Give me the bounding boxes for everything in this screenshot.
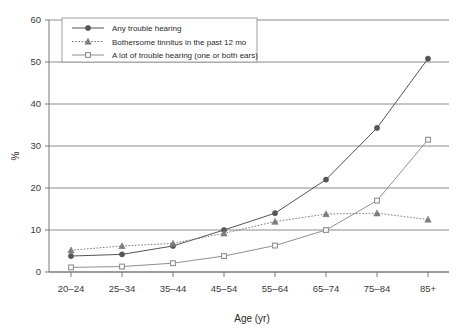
- x-tick-label-6: 75–84: [364, 283, 390, 294]
- x-axis-tick-labels: 20–2425–3435–4445–5455–6465–7475–8485+: [58, 283, 437, 294]
- x-tick-label-7: 85+: [420, 283, 437, 294]
- data-point-marker-square: [375, 198, 380, 203]
- series-0: [68, 56, 430, 259]
- data-point-marker-square: [273, 243, 278, 248]
- series-line-0: [71, 59, 428, 256]
- data-point-marker-circle: [119, 252, 124, 257]
- data-point-marker-square: [171, 261, 176, 266]
- x-tick-label-2: 35–44: [160, 283, 186, 294]
- data-point-marker-circle: [425, 56, 430, 61]
- series-line-1: [71, 213, 428, 250]
- series-1: [68, 210, 431, 253]
- data-point-marker-circle: [68, 253, 73, 258]
- x-axis-title: Age (yr): [234, 313, 270, 324]
- y-axis-title: %: [10, 151, 21, 160]
- legend: Any trouble hearingBothersome tinnitus i…: [62, 18, 258, 62]
- data-series-group: [68, 56, 431, 270]
- data-point-marker-circle: [323, 177, 328, 182]
- y-tick-label-20: 20: [30, 182, 41, 193]
- data-point-marker-square: [120, 264, 125, 269]
- y-tick-label-60: 60: [30, 14, 41, 25]
- data-point-marker-square: [69, 265, 74, 270]
- data-point-marker-circle: [85, 25, 90, 30]
- data-point-marker-square: [86, 53, 91, 58]
- chart-canvas: 0102030405060 20–2425–3435–4445–5455–646…: [0, 0, 458, 331]
- y-axis-tick-labels: 0102030405060: [30, 14, 41, 277]
- data-point-marker-triangle: [425, 216, 431, 222]
- y-tick-label-40: 40: [30, 98, 41, 109]
- series-2: [69, 137, 431, 269]
- data-point-marker-triangle: [374, 210, 380, 216]
- legend-label-0: Any trouble hearing: [112, 24, 181, 33]
- x-tick-label-3: 45–54: [211, 283, 237, 294]
- data-point-marker-square: [426, 137, 431, 142]
- y-tick-label-50: 50: [30, 56, 41, 67]
- legend-label-2: A lot of trouble hearing (one or both ea…: [112, 51, 258, 60]
- legend-label-1: Bothersome tinnitus in the past 12 mo: [112, 38, 247, 47]
- x-tick-label-5: 65–74: [313, 283, 339, 294]
- y-tick-label-10: 10: [30, 224, 41, 235]
- y-tick-label-30: 30: [30, 140, 41, 151]
- hearing-trouble-by-age-chart: 0102030405060 20–2425–3435–4445–5455–646…: [0, 0, 458, 331]
- x-tick-label-0: 20–24: [58, 283, 84, 294]
- data-point-marker-circle: [272, 211, 277, 216]
- y-tick-label-0: 0: [36, 266, 41, 277]
- x-tick-label-1: 25–34: [109, 283, 135, 294]
- data-point-marker-triangle: [68, 247, 74, 253]
- x-tick-label-4: 55–64: [262, 283, 288, 294]
- data-point-marker-square: [324, 228, 329, 233]
- data-point-marker-square: [222, 254, 227, 259]
- data-point-marker-circle: [374, 125, 379, 130]
